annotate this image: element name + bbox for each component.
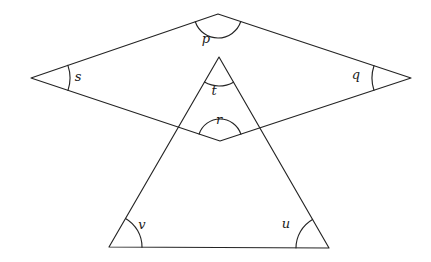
angle-arc-u — [296, 219, 313, 247]
angle-arc-s — [68, 65, 70, 90]
angle-label-t: t — [211, 83, 217, 98]
angle-arc-q — [372, 66, 374, 91]
angle-label-v: v — [138, 217, 146, 232]
diagram-canvas: psqrtvu — [0, 0, 431, 262]
shape-outlines — [31, 14, 411, 248]
angle-label-p: p — [202, 31, 211, 46]
geometry-figure: psqrtvu — [0, 0, 431, 262]
angle-label-q: q — [352, 67, 360, 82]
angle-arcs — [68, 22, 374, 248]
angle-label-r: r — [216, 112, 223, 127]
angle-label-s: s — [75, 69, 82, 84]
angle-label-u: u — [282, 216, 290, 231]
angle-arc-t — [204, 82, 233, 86]
